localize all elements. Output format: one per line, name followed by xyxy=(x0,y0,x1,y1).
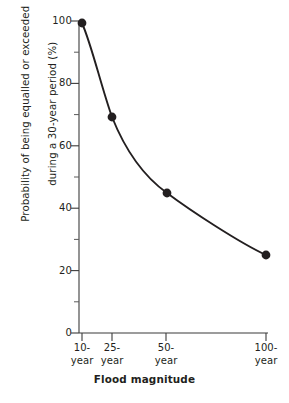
data-curve xyxy=(82,23,266,255)
data-markers xyxy=(78,19,271,260)
data-point-10-year xyxy=(78,19,87,28)
x-axis xyxy=(79,333,268,341)
data-point-100-year xyxy=(262,251,271,260)
flood-probability-chart: Probability of being equalled or exceede… xyxy=(0,0,289,403)
data-point-50-year xyxy=(163,189,172,198)
y-axis xyxy=(71,21,79,333)
data-point-25-year xyxy=(108,113,117,122)
plot-area xyxy=(0,0,289,403)
